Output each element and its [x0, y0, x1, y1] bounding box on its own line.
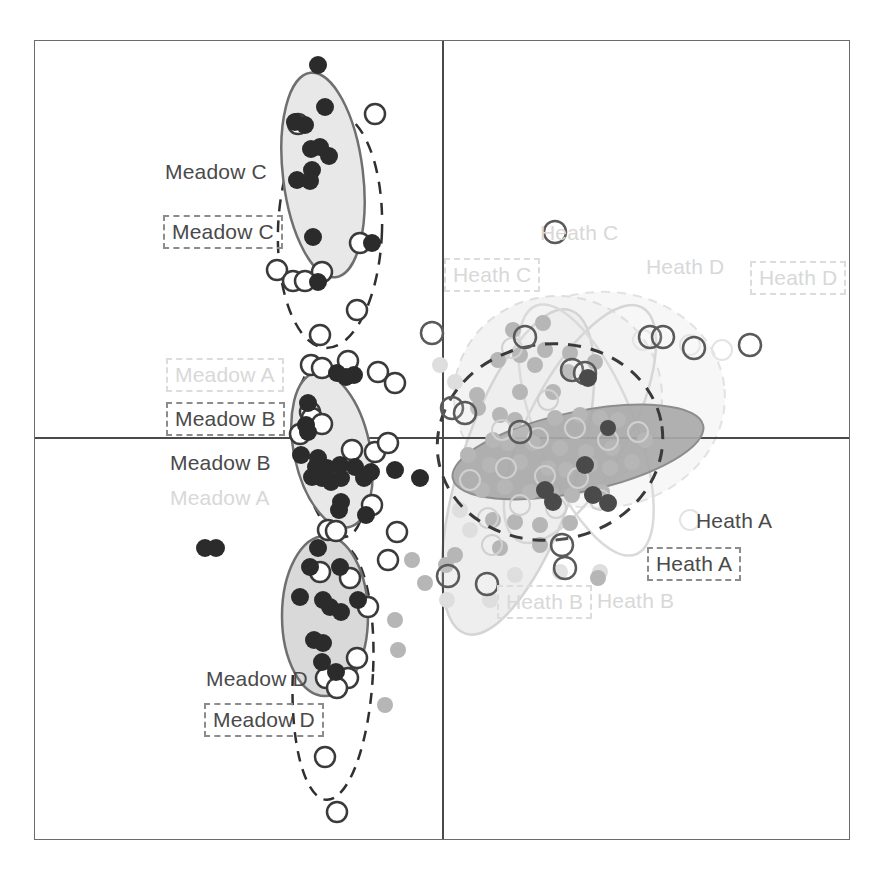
label-heath-a-boxed[interactable]: Heath A [647, 547, 741, 581]
label-heath-b-boxed[interactable]: Heath B [497, 585, 592, 619]
label-meadow-b-boxed[interactable]: Meadow B [166, 402, 285, 436]
label-heath-c-plain: Heath C [540, 222, 618, 243]
label-meadow-c-plain: Meadow C [165, 161, 267, 182]
label-meadow-b-plain: Meadow B [170, 452, 271, 473]
label-heath-c-boxed[interactable]: Heath C [444, 258, 540, 292]
label-meadow-d-boxed[interactable]: Meadow D [204, 703, 324, 737]
label-meadow-a-boxed[interactable]: Meadow A [166, 358, 284, 392]
label-heath-a-plain: Heath A [696, 510, 772, 531]
label-meadow-c-boxed[interactable]: Meadow C [163, 215, 283, 249]
label-heath-d-plain: Heath D [646, 256, 724, 277]
label-meadow-d-plain: Meadow D [206, 668, 308, 689]
label-heath-b-plain: Heath B [597, 590, 674, 611]
label-heath-d-boxed[interactable]: Heath D [750, 261, 846, 295]
scatter-plot-svg [0, 0, 883, 870]
figure-canvas: Meadow C Meadow C Meadow A Meadow A Mead… [0, 0, 883, 870]
label-meadow-a-plain: Meadow A [170, 487, 270, 508]
